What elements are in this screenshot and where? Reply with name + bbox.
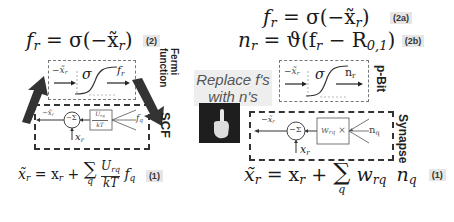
label-sub: r bbox=[81, 136, 84, 144]
label-text: × bbox=[335, 125, 345, 135]
eq-sub: q bbox=[409, 173, 417, 187]
eq-text: = x bbox=[30, 166, 59, 182]
sigma-symbol: σ bbox=[82, 66, 92, 82]
replace-note: Replace f's with n's bbox=[194, 70, 272, 106]
eq-text: = ϑ(f bbox=[257, 28, 316, 52]
eq-text: x̃ bbox=[18, 166, 26, 182]
eq-text: n bbox=[397, 163, 409, 185]
eq-tag: (2b) bbox=[402, 35, 425, 47]
weight-fraction: Urq kT bbox=[92, 110, 108, 129]
weight-label: wrq × bbox=[321, 125, 346, 135]
sigma-symbol: σ bbox=[315, 66, 325, 82]
eq-text: w bbox=[356, 163, 372, 185]
eq-sub: q bbox=[130, 173, 136, 183]
eq-text: = x bbox=[261, 163, 300, 185]
sum-symbol: ∑ bbox=[84, 163, 97, 175]
eq-text: + bbox=[63, 166, 84, 182]
scf-block: −x̃r −Σ Urq kT fq xr bbox=[34, 104, 150, 150]
label-text: w bbox=[321, 125, 329, 135]
block-x-input: xr bbox=[75, 131, 84, 144]
replace-line-1: Replace f's bbox=[196, 71, 270, 88]
eq-text: + bbox=[305, 163, 333, 185]
label-sub: q bbox=[139, 117, 143, 123]
p-bit-block: −x̃r σ nr bbox=[279, 60, 369, 102]
eq-sub: rq bbox=[373, 173, 387, 187]
label-sub: rq bbox=[100, 113, 104, 118]
synapse-block: −x̃r −Σ wrq × nq xr bbox=[249, 111, 394, 161]
sum-symbol: −Σ bbox=[66, 114, 77, 122]
left-eq2: fr = σ(−x̃r) (2) bbox=[26, 28, 160, 53]
sum-symbol: −Σ bbox=[289, 125, 301, 134]
eq-text: ) bbox=[388, 28, 396, 52]
left-eq1: x̃r = xr + ∑ q Urq kT fq (1) bbox=[18, 160, 163, 200]
p-bit-label: p-Bit bbox=[374, 65, 388, 92]
fermi-function-block: −x̃r σ fr bbox=[48, 60, 136, 100]
label-text: kT bbox=[92, 120, 108, 129]
scf-label: SCF bbox=[158, 112, 173, 138]
right-eq2b: nr = ϑ(fr − R0,1) (2b) bbox=[238, 28, 424, 53]
synapse-label: Synapse bbox=[396, 114, 410, 163]
label-sub: r bbox=[306, 148, 309, 157]
eq-text: ) bbox=[125, 28, 133, 52]
eq-tag: (2a) bbox=[390, 12, 412, 24]
block-x-input: xr bbox=[300, 143, 310, 157]
right-eq2a: fr = σ(−x̃r) (2a) bbox=[263, 5, 412, 30]
eq-sub: rq bbox=[111, 165, 120, 174]
eq-text: = σ(−x̃ bbox=[40, 28, 119, 52]
eq-text: ) bbox=[362, 5, 370, 29]
sum-symbol: ∑ bbox=[333, 163, 350, 181]
block-input: fq bbox=[136, 113, 143, 123]
block-output: fr bbox=[117, 64, 125, 78]
eq-text: n bbox=[238, 28, 251, 52]
eq-text: x̃ bbox=[244, 163, 255, 185]
eq-text: = σ(−x̃ bbox=[277, 5, 356, 29]
right-eq1: x̃r = xr + ∑ q wrq nq (1) bbox=[244, 163, 446, 213]
eq-text: kT bbox=[101, 176, 120, 190]
eq-text: U bbox=[101, 159, 111, 173]
label-sub: q bbox=[375, 129, 379, 137]
eq-text: − R bbox=[322, 28, 367, 52]
pointing-hand-icon bbox=[199, 103, 240, 143]
label-sub: r bbox=[121, 69, 124, 78]
eq-tag: (1) bbox=[146, 170, 163, 182]
block-input: nq bbox=[369, 124, 380, 137]
label-sub: r bbox=[352, 71, 355, 80]
pointing-hand-image bbox=[199, 103, 240, 143]
eq-tag: (1) bbox=[429, 169, 446, 181]
eq-tag: (2) bbox=[143, 35, 160, 47]
eq-sub: 0,1 bbox=[367, 38, 388, 53]
block-output: nr bbox=[345, 66, 356, 80]
